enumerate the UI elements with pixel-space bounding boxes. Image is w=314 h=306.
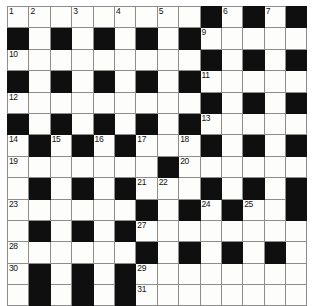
- crossword-cell[interactable]: 21: [136, 178, 157, 199]
- crossword-cell[interactable]: 7: [264, 7, 285, 28]
- crossword-cell[interactable]: [179, 92, 200, 113]
- crossword-cell[interactable]: [50, 156, 71, 177]
- crossword-cell[interactable]: 16: [93, 135, 114, 156]
- crossword-cell[interactable]: [50, 92, 71, 113]
- crossword-cell[interactable]: 9: [200, 28, 221, 49]
- crossword-cell[interactable]: 10: [8, 49, 29, 70]
- crossword-cell[interactable]: [264, 135, 285, 156]
- crossword-cell[interactable]: 11: [200, 71, 221, 92]
- crossword-cell[interactable]: [221, 285, 242, 306]
- crossword-cell[interactable]: [157, 285, 178, 306]
- crossword-cell[interactable]: 29: [136, 263, 157, 284]
- crossword-cell[interactable]: [286, 220, 307, 241]
- crossword-cell[interactable]: [157, 135, 178, 156]
- crossword-cell[interactable]: [114, 199, 135, 220]
- crossword-cell[interactable]: [243, 71, 264, 92]
- crossword-cell[interactable]: [93, 49, 114, 70]
- crossword-cell[interactable]: 22: [157, 178, 178, 199]
- crossword-cell[interactable]: [93, 263, 114, 284]
- crossword-cell[interactable]: [179, 178, 200, 199]
- crossword-cell[interactable]: [221, 92, 242, 113]
- crossword-cell[interactable]: [157, 220, 178, 241]
- crossword-cell[interactable]: [157, 113, 178, 134]
- crossword-cell[interactable]: [114, 242, 135, 263]
- crossword-cell[interactable]: [29, 71, 50, 92]
- crossword-cell[interactable]: [114, 92, 135, 113]
- crossword-cell[interactable]: [29, 28, 50, 49]
- crossword-cell[interactable]: [29, 92, 50, 113]
- crossword-cell[interactable]: [72, 113, 93, 134]
- crossword-cell[interactable]: [243, 220, 264, 241]
- crossword-cell[interactable]: [179, 49, 200, 70]
- crossword-cell[interactable]: [179, 285, 200, 306]
- crossword-cell[interactable]: [114, 71, 135, 92]
- crossword-cell[interactable]: [29, 49, 50, 70]
- crossword-cell[interactable]: [157, 28, 178, 49]
- crossword-cell[interactable]: [50, 7, 71, 28]
- crossword-cell[interactable]: [221, 113, 242, 134]
- crossword-cell[interactable]: [243, 242, 264, 263]
- crossword-cell[interactable]: [93, 92, 114, 113]
- crossword-cell[interactable]: [29, 199, 50, 220]
- crossword-cell[interactable]: [93, 220, 114, 241]
- crossword-cell[interactable]: [72, 242, 93, 263]
- crossword-cell[interactable]: [72, 92, 93, 113]
- crossword-cell[interactable]: [50, 199, 71, 220]
- crossword-cell[interactable]: 13: [200, 113, 221, 134]
- crossword-cell[interactable]: [93, 285, 114, 306]
- crossword-cell[interactable]: 18: [179, 135, 200, 156]
- crossword-cell[interactable]: 19: [8, 156, 29, 177]
- crossword-cell[interactable]: [221, 49, 242, 70]
- crossword-cell[interactable]: [50, 242, 71, 263]
- crossword-cell[interactable]: [136, 49, 157, 70]
- crossword-cell[interactable]: 31: [136, 285, 157, 306]
- crossword-cell[interactable]: 2: [29, 7, 50, 28]
- crossword-cell[interactable]: [114, 156, 135, 177]
- crossword-cell[interactable]: [157, 49, 178, 70]
- crossword-cell[interactable]: [286, 285, 307, 306]
- crossword-cell[interactable]: [221, 28, 242, 49]
- crossword-cell[interactable]: [179, 263, 200, 284]
- crossword-cell[interactable]: [264, 113, 285, 134]
- crossword-cell[interactable]: [243, 285, 264, 306]
- crossword-cell[interactable]: [200, 242, 221, 263]
- crossword-cell[interactable]: [72, 28, 93, 49]
- crossword-cell[interactable]: 4: [114, 7, 135, 28]
- crossword-cell[interactable]: [72, 156, 93, 177]
- crossword-cell[interactable]: [264, 178, 285, 199]
- crossword-cell[interactable]: [179, 7, 200, 28]
- crossword-cell[interactable]: [286, 263, 307, 284]
- crossword-cell[interactable]: [200, 220, 221, 241]
- crossword-cell[interactable]: [221, 156, 242, 177]
- crossword-cell[interactable]: [157, 92, 178, 113]
- crossword-cell[interactable]: [200, 263, 221, 284]
- crossword-cell[interactable]: 6: [221, 7, 242, 28]
- crossword-cell[interactable]: [264, 199, 285, 220]
- crossword-cell[interactable]: 3: [72, 7, 93, 28]
- crossword-cell[interactable]: [264, 285, 285, 306]
- crossword-cell[interactable]: 20: [179, 156, 200, 177]
- crossword-cell[interactable]: [8, 178, 29, 199]
- crossword-cell[interactable]: [243, 28, 264, 49]
- crossword-cell[interactable]: [8, 285, 29, 306]
- crossword-cell[interactable]: [72, 71, 93, 92]
- crossword-cell[interactable]: [157, 263, 178, 284]
- crossword-cell[interactable]: [286, 242, 307, 263]
- crossword-cell[interactable]: [50, 49, 71, 70]
- crossword-cell[interactable]: [50, 220, 71, 241]
- crossword-cell[interactable]: 27: [136, 220, 157, 241]
- crossword-cell[interactable]: [286, 113, 307, 134]
- crossword-cell[interactable]: [8, 220, 29, 241]
- crossword-cell[interactable]: 17: [136, 135, 157, 156]
- crossword-cell[interactable]: [264, 71, 285, 92]
- crossword-cell[interactable]: [50, 285, 71, 306]
- crossword-cell[interactable]: [286, 28, 307, 49]
- crossword-cell[interactable]: 25: [243, 199, 264, 220]
- crossword-cell[interactable]: [29, 156, 50, 177]
- crossword-cell[interactable]: 14: [8, 135, 29, 156]
- crossword-cell[interactable]: [264, 156, 285, 177]
- crossword-cell[interactable]: 12: [8, 92, 29, 113]
- crossword-cell[interactable]: [264, 263, 285, 284]
- crossword-cell[interactable]: 28: [8, 242, 29, 263]
- crossword-cell[interactable]: [136, 92, 157, 113]
